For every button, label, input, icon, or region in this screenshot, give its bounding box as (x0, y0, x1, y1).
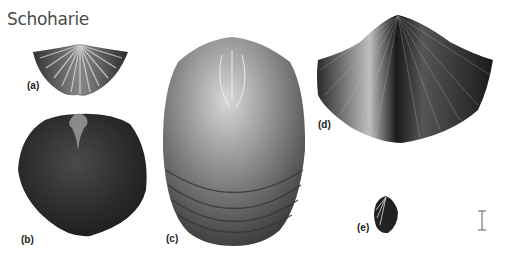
fossil-plate (0, 0, 510, 254)
specimen-a (33, 44, 128, 96)
label-c: (c) (166, 233, 178, 244)
label-a: (a) (27, 80, 39, 91)
specimen-e (374, 196, 398, 233)
label-d: (d) (318, 119, 331, 130)
label-e: (e) (357, 222, 369, 233)
scale-bar (478, 211, 486, 230)
label-b: (b) (21, 234, 34, 245)
specimen-c (163, 37, 305, 246)
specimen-d (317, 15, 493, 143)
specimen-b (18, 114, 147, 237)
